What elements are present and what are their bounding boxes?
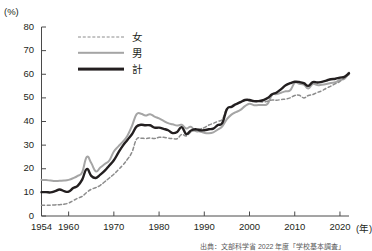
data-series-layer (42, 73, 350, 206)
source-note: 出典：文部科学省 2022 年度「学校基本調査」 (200, 241, 345, 251)
series-line-total (42, 73, 350, 192)
legend-swatch-total-line-icon (78, 64, 124, 74)
legend-item-male: 男 (78, 45, 142, 61)
legend-item-total: 計 (78, 61, 142, 77)
legend-item-female: 女 (78, 29, 142, 45)
legend-swatch-female-line-icon (78, 32, 124, 42)
legend-swatch-male-line-icon (78, 48, 124, 58)
chart-legend: 女 男 計 (78, 29, 142, 77)
legend-label-female: 女 (132, 32, 142, 43)
series-line-female (42, 75, 350, 205)
legend-label-male: 男 (132, 48, 142, 59)
legend-label-total: 計 (132, 64, 142, 75)
series-line-male (42, 73, 350, 181)
